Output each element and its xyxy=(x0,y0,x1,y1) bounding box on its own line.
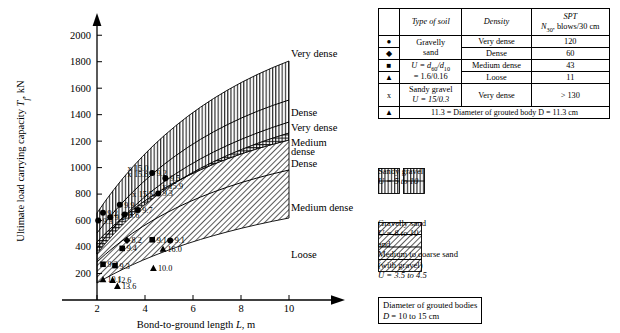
legend-gs-line4: Medium to coarse sand xyxy=(378,249,458,259)
legend-sandy-gravel-text: Sandy gravel U = 5 to 10 xyxy=(378,166,423,187)
legend-gravelly-sand-text: Gravelly sand U = 8 to 10 and Medium to … xyxy=(378,218,458,281)
legend-gs-line5: (with gravel) xyxy=(378,260,458,270)
header-symbol xyxy=(379,9,400,36)
header-spt: SPT N30, blows/30 cm xyxy=(531,9,609,36)
sg-line1: Sandy gravel xyxy=(409,85,453,94)
header-spt-line1: SPT xyxy=(563,12,577,21)
header-spt-rest: , blows/30 cm xyxy=(553,22,600,31)
curve-label: Very dense xyxy=(291,122,338,133)
legend-gs-line3: and xyxy=(378,239,458,249)
boxed-note-line1: Diameter of grouted bodies xyxy=(383,300,477,311)
legend-gs-line6: U = 3.5 to 4.5 xyxy=(378,270,458,280)
x-tick-label: 4 xyxy=(142,303,148,314)
x-tick-label: 2 xyxy=(94,303,99,314)
boxed-note-line2: DD = 10 to 15 cm = 10 to 15 cm xyxy=(383,311,477,322)
density-medium-dense: Medium dense xyxy=(462,60,531,72)
data-point-circle xyxy=(122,212,128,218)
x-axis-ticks: 246810 xyxy=(94,295,294,314)
y-tick-label: 1200 xyxy=(70,136,91,147)
load-capacity-scatter-chart: 200400600800100012001400160018002000 246… xyxy=(0,0,370,333)
data-point-square xyxy=(119,246,125,252)
sg-line2: U = 15/0.3 xyxy=(412,95,449,104)
spt-value: 11 xyxy=(531,72,609,84)
y-tick-label: 800 xyxy=(75,188,91,199)
data-point-label: 9.4 xyxy=(127,244,137,253)
spt-value: > 130 xyxy=(531,84,609,107)
data-point-square xyxy=(100,261,106,267)
data-point-square xyxy=(149,237,155,243)
y-tick-label: 1800 xyxy=(70,56,91,67)
curve-label: Dense xyxy=(291,107,318,118)
curve-label: dense xyxy=(291,146,315,157)
data-point-label: 9.3 xyxy=(163,189,173,198)
curve-label: Very dense xyxy=(291,48,338,59)
x-tick-label: 10 xyxy=(284,303,295,314)
y-tick-label: 2000 xyxy=(70,30,91,41)
data-point-circle xyxy=(155,190,161,196)
header-density: Density xyxy=(462,9,531,36)
data-point-cross: x xyxy=(132,190,136,199)
y-axis-label: Ultimate load carrying capacity Tf, kN xyxy=(15,80,31,242)
table-row: x Sandy gravel U = 15/0.3 Very dense > 1… xyxy=(379,84,610,107)
y-tick-label: 400 xyxy=(75,241,91,252)
data-point-cross: x xyxy=(127,170,131,179)
data-point-circle xyxy=(167,237,173,243)
header-type-of-soil: Type of soil xyxy=(400,9,462,36)
diamond-marker: ◆ xyxy=(379,48,400,60)
square-marker: ■ xyxy=(379,60,400,72)
density-dense: Dense xyxy=(462,48,531,60)
soil-sandy-gravel-name: Sandy gravel U = 15/0.3 xyxy=(400,84,462,107)
data-point-circle xyxy=(95,218,101,224)
data-point-label: 16.0 xyxy=(168,245,182,254)
data-point-label: 15.5 xyxy=(139,190,153,199)
gs-line4: = 1.6/0.16 xyxy=(414,72,448,81)
gs-sub2: 10 xyxy=(444,65,450,72)
data-point-circle xyxy=(100,210,106,216)
data-point-label: 9.1 xyxy=(157,236,167,245)
curve-labels: Very denseDenseVery denseMediumdenseDens… xyxy=(291,48,353,260)
legend-sg-line1: Sandy gravel xyxy=(378,166,423,176)
data-point-label: 10.0 xyxy=(158,264,172,273)
data-point-circle xyxy=(117,202,123,208)
footnote-text: 11.3 = Diameter of grouted body D = 11.3… xyxy=(400,106,610,119)
data-point-label: 9.3 xyxy=(120,262,130,271)
table-row: ■ U = d60/d10 = 1.6/0.16 Medium dense 43 xyxy=(379,60,610,72)
legend-gs-line2: U = 8 to 10 xyxy=(378,228,458,238)
data-point-label: 9.9 xyxy=(124,201,134,210)
spt-value: 120 xyxy=(531,36,609,48)
soil-uniformity-coefficient: U = d60/d10 = 1.6/0.16 xyxy=(400,60,462,84)
data-point-triangle xyxy=(150,265,157,271)
density-very-dense-2: Very dense xyxy=(462,84,531,107)
curve-label: Dense xyxy=(291,158,318,169)
y-tick-label: 200 xyxy=(75,268,91,279)
spt-value: 43 xyxy=(531,60,609,72)
data-point-circle xyxy=(162,175,168,181)
table-footnote-row: ▲ 11.3 = Diameter of grouted body D = 11… xyxy=(379,106,610,119)
gs-line3: U = d xyxy=(411,61,431,70)
triangle-marker: ▲ xyxy=(379,72,400,84)
data-point-label: 15.8 xyxy=(134,170,148,179)
density-loose: Loose xyxy=(462,72,531,84)
y-tick-label: 1000 xyxy=(70,162,91,173)
y-tick-label: 1600 xyxy=(70,83,91,94)
soil-properties-table-wrap: Type of soil Density SPT N30, blows/30 c… xyxy=(378,8,610,119)
cross-marker: x xyxy=(379,84,400,107)
triangle-marker-footnote: ▲ xyxy=(379,106,400,119)
soil-gravelly-sand-name: Gravelly sand xyxy=(400,36,462,60)
table-row: ● Gravelly sand Very dense 120 xyxy=(379,36,610,48)
x-axis-label: Bond-to-ground length L, m xyxy=(137,319,255,330)
curve-label: Medium dense xyxy=(291,202,353,213)
density-very-dense: Very dense xyxy=(462,36,531,48)
grouted-body-diameter-note: Diameter of grouted bodies DD = 10 to 15… xyxy=(378,297,482,324)
data-point-circle xyxy=(149,170,155,176)
legend-sg-line2: U = 5 to 10 xyxy=(378,176,423,186)
y-tick-label: 1400 xyxy=(70,109,91,120)
data-point-label: 13.6 xyxy=(122,282,136,291)
chart-panel: 200400600800100012001400160018002000 246… xyxy=(0,0,370,333)
x-tick-label: 8 xyxy=(238,303,243,314)
y-tick-label: 600 xyxy=(75,215,91,226)
gs-line2: sand xyxy=(423,48,438,57)
gs-line1: Gravelly xyxy=(416,38,445,47)
circle-marker: ● xyxy=(379,36,400,48)
data-point-circle xyxy=(107,214,113,220)
